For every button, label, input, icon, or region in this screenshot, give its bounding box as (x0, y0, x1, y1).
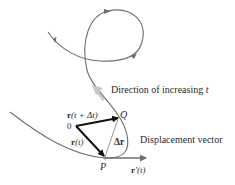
point-p-label: P (99, 161, 106, 172)
point-p-dot (103, 156, 106, 159)
r-t-label: r(t) (71, 137, 84, 147)
curve-arrow-top (104, 9, 111, 14)
r-t-dt-label: r(t + Δt) (67, 110, 98, 120)
point-q-label: Q (120, 109, 128, 120)
r-prime-label: r′(t) (131, 165, 145, 175)
displacement-label: Displacement vector (140, 134, 223, 145)
origin-label: 0 (67, 121, 72, 131)
delta-r-label: Δr (114, 137, 125, 147)
direction-label: Direction of increasing t (111, 84, 209, 95)
parametric-curve-diagram: Direction of increasing t 0 Q P r(t + Δt… (0, 0, 235, 185)
